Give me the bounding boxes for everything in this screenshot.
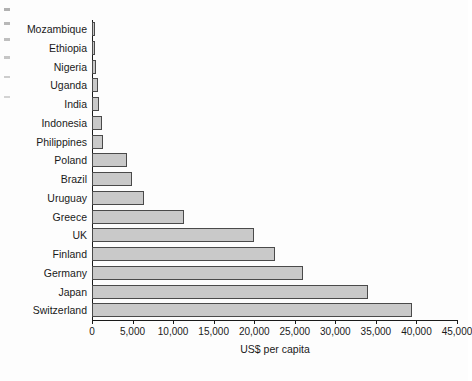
bar [92,210,184,224]
category-label: Germany [44,265,87,281]
category-label: Switzerland [33,302,87,318]
bar [92,116,102,130]
x-tick [173,320,174,324]
bar [92,153,127,167]
bar [92,60,96,74]
bar [92,78,98,92]
category-label: India [64,96,87,112]
x-tick-label: 30,000 [320,326,351,338]
bar [92,41,95,55]
x-tick [92,320,93,324]
bar [92,247,275,261]
bar [92,303,412,317]
category-label: UK [72,227,87,243]
category-label: Mozambique [27,21,87,37]
x-tick [457,320,458,324]
x-tick [214,320,215,324]
category-label: Uganda [50,77,87,93]
category-label: Finland [53,246,87,262]
category-label: Nigeria [54,59,87,75]
x-axis-title: US$ per capita [92,342,458,356]
bar [92,172,132,186]
category-label: Poland [54,152,87,168]
x-tick-label: 40,000 [401,326,432,338]
bar [92,22,95,36]
bar [92,191,144,205]
plot-area: MozambiqueEthiopiaNigeriaUgandaIndiaIndo… [92,20,457,320]
x-tick-label: 35,000 [361,326,392,338]
x-tick [133,320,134,324]
x-axis-line [92,320,458,321]
bar [92,135,103,149]
x-tick [254,320,255,324]
x-tick [376,320,377,324]
category-label: Ethiopia [49,40,87,56]
x-tick-label: 45,000 [442,326,472,338]
bar [92,228,254,242]
x-tick-label: 25,000 [279,326,310,338]
x-tick-label: 15,000 [198,326,229,338]
category-label: Japan [58,284,87,300]
scan-artifact-edge [4,8,10,118]
x-tick-label: 0 [89,326,95,338]
x-tick-label: 5,000 [120,326,145,338]
bar [92,97,99,111]
bar [92,266,303,280]
category-label: Greece [53,209,87,225]
category-label: Philippines [36,134,87,150]
category-label: Brazil [61,171,87,187]
x-tick-label: 10,000 [158,326,189,338]
category-label: Uruguay [47,190,87,206]
x-tick [416,320,417,324]
x-tick-label: 20,000 [239,326,270,338]
x-tick [295,320,296,324]
category-label: Indonesia [41,115,87,131]
bar [92,285,368,299]
x-tick [335,320,336,324]
